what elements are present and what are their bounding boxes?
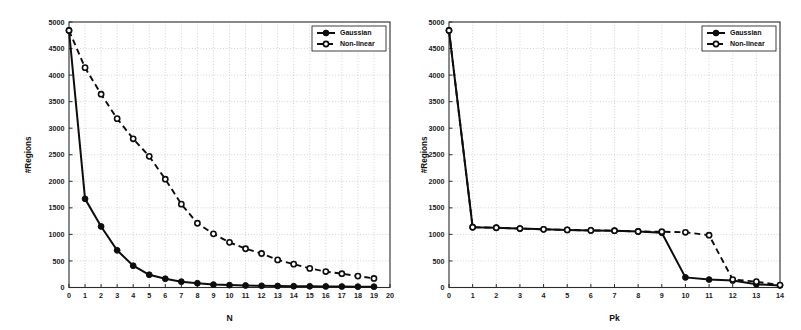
data-point [612, 228, 617, 233]
x-tick-label: 10 [681, 291, 689, 300]
y-tick-label: 0 [61, 283, 65, 292]
chart-panel-right: 0123456789101112131405001000150020002500… [400, 0, 800, 330]
data-point [777, 283, 782, 288]
data-point [259, 251, 264, 256]
data-point [754, 279, 759, 284]
data-point [446, 28, 451, 33]
legend-marker-sample [713, 30, 719, 36]
y-axis-title: #Regions [24, 136, 33, 173]
data-point [146, 272, 152, 278]
legend[interactable]: GaussianNon-linear [702, 26, 776, 51]
figure-container: 0123456789101112131415161718192005001000… [0, 0, 801, 330]
x-tick-label: 14 [290, 291, 298, 300]
axis-ticks: 0123456789101112131415161718192005001000… [49, 18, 395, 300]
x-tick-label: 3 [518, 291, 522, 300]
x-tick-label: 3 [115, 291, 119, 300]
y-tick-label: 1500 [49, 203, 65, 212]
data-point [211, 282, 217, 288]
x-tick-label: 18 [354, 291, 362, 300]
data-point [683, 275, 689, 281]
data-point [706, 277, 712, 283]
y-tick-label: 4000 [49, 71, 65, 80]
y-tick-label: 5000 [49, 18, 65, 27]
data-point [275, 283, 281, 289]
x-tick-label: 6 [163, 291, 167, 300]
data-point [541, 227, 546, 232]
y-tick-label: 1500 [429, 203, 445, 212]
data-point [179, 202, 184, 207]
data-point [178, 279, 184, 285]
y-tick-label: 0 [441, 283, 445, 292]
data-point [227, 282, 233, 288]
y-tick-label: 3000 [429, 124, 445, 133]
data-point [355, 284, 361, 290]
x-tick-label: 12 [258, 291, 266, 300]
y-tick-label: 3500 [49, 97, 65, 106]
data-point [339, 284, 345, 290]
x-tick-label: 14 [776, 291, 784, 300]
data-point [66, 28, 71, 33]
data-point [636, 229, 641, 234]
x-tick-label: 4 [131, 291, 135, 300]
data-point [683, 230, 688, 235]
x-tick-label: 12 [729, 291, 737, 300]
series-gaussian [66, 28, 377, 290]
legend-marker-sample [323, 41, 328, 46]
data-point [98, 224, 104, 230]
y-tick-label: 4500 [429, 44, 445, 53]
x-tick-label: 2 [494, 291, 498, 300]
chart-panel-left: 0123456789101112131415161718192005001000… [0, 0, 400, 330]
data-point [659, 229, 664, 234]
x-tick-label: 5 [565, 291, 569, 300]
y-axis-title: #Regions [420, 136, 429, 173]
data-point [706, 233, 711, 238]
x-tick-label: 20 [386, 291, 394, 300]
data-point [195, 280, 201, 286]
data-point [371, 276, 376, 281]
data-point [99, 92, 104, 97]
data-point [162, 276, 168, 282]
data-point [131, 136, 136, 141]
x-axis-title: Pk [609, 313, 620, 323]
x-tick-label: 11 [705, 291, 713, 300]
data-point [147, 154, 152, 159]
x-axis-title: N [226, 313, 232, 323]
data-point [730, 277, 735, 282]
y-tick-label: 3000 [49, 124, 65, 133]
y-tick-label: 2000 [429, 177, 445, 186]
y-tick-label: 500 [53, 257, 65, 266]
data-point [323, 269, 328, 274]
x-tick-label: 10 [226, 291, 234, 300]
x-tick-label: 0 [447, 291, 451, 300]
data-point [565, 227, 570, 232]
data-point [114, 247, 120, 253]
data-point [371, 284, 377, 290]
x-tick-label: 13 [752, 291, 760, 300]
x-tick-label: 2 [99, 291, 103, 300]
legend-marker-sample [713, 41, 718, 46]
data-point [82, 196, 88, 202]
x-tick-label: 8 [636, 291, 640, 300]
grid-lines [449, 22, 780, 288]
y-tick-label: 1000 [49, 230, 65, 239]
legend-entry-label: Gaussian [730, 29, 762, 36]
left-plot-svg: 0123456789101112131415161718192005001000… [0, 0, 400, 330]
x-tick-label: 16 [322, 291, 330, 300]
y-tick-label: 2500 [49, 150, 65, 159]
x-tick-label: 0 [67, 291, 71, 300]
x-tick-label: 15 [306, 291, 314, 300]
data-point [291, 262, 296, 267]
y-tick-label: 5000 [429, 18, 445, 27]
y-tick-label: 4500 [49, 44, 65, 53]
data-point [307, 266, 312, 271]
x-tick-label: 4 [542, 291, 546, 300]
legend-entry-label: Non-linear [340, 40, 375, 47]
data-point [259, 283, 265, 289]
x-tick-label: 9 [660, 291, 664, 300]
legend[interactable]: GaussianNon-linear [312, 26, 386, 51]
y-tick-label: 4000 [429, 71, 445, 80]
x-tick-label: 9 [211, 291, 215, 300]
x-tick-label: 1 [83, 291, 87, 300]
x-tick-label: 19 [370, 291, 378, 300]
data-point [291, 283, 297, 289]
